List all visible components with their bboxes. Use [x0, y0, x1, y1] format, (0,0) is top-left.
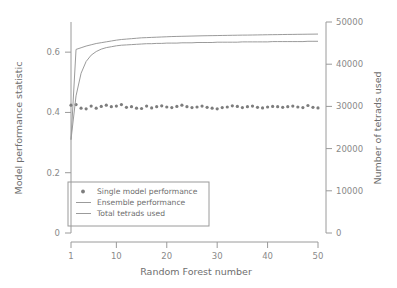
x-tick-label: 30: [212, 251, 223, 261]
y2-axis-title: Number of tetrads used: [372, 71, 383, 184]
data-point: [291, 105, 294, 108]
x-tick-label: 40: [262, 251, 273, 261]
data-point: [130, 105, 133, 108]
x-tick-label: 1: [68, 251, 73, 261]
y2-tick-label: 50000: [336, 17, 363, 27]
series-line-ensemble-performance: [71, 41, 318, 139]
data-point: [165, 105, 168, 108]
data-point: [311, 106, 314, 109]
data-point: [115, 105, 118, 108]
data-point: [281, 106, 284, 109]
data-point: [90, 105, 93, 108]
figure: 00.20.40.6 01000020000300004000050000 11…: [0, 0, 397, 288]
data-point: [105, 104, 108, 107]
data-point: [241, 106, 244, 109]
data-point: [206, 106, 209, 109]
series-line-total-tetrads-used: [71, 34, 318, 140]
legend-dot-marker: [81, 190, 85, 194]
data-point: [200, 105, 203, 108]
data-point: [190, 106, 193, 109]
legend-label: Total tetrads used: [96, 209, 165, 218]
data-point: [135, 107, 138, 110]
data-series-layer: [69, 34, 319, 140]
data-point: [271, 105, 274, 108]
data-point: [110, 105, 113, 108]
data-point: [306, 104, 309, 107]
y2-tick-label: 40000: [336, 59, 363, 69]
x-tick-label: 50: [313, 251, 324, 261]
series-markers-single-model-performance: [69, 103, 319, 110]
left-axis: 00.20.40.6: [46, 22, 71, 238]
data-point: [170, 106, 173, 109]
right-axis-ticks: 01000020000300004000050000: [326, 17, 363, 238]
data-point: [216, 107, 219, 110]
data-point: [195, 105, 198, 108]
data-point: [286, 105, 289, 108]
data-point: [140, 107, 143, 110]
y2-tick-label: 0: [336, 228, 341, 238]
data-point: [95, 107, 98, 110]
data-point: [316, 106, 319, 109]
left-axis-ticks: 00.20.40.6: [46, 47, 71, 238]
data-point: [211, 107, 214, 110]
x-axis-ticks: 11020304050: [68, 242, 323, 261]
data-point: [79, 107, 82, 110]
legend-label: Single model performance: [97, 187, 198, 196]
x-tick-label: 10: [111, 251, 122, 261]
data-point: [266, 105, 269, 108]
data-point: [120, 103, 123, 106]
data-point: [185, 105, 188, 108]
right-axis: 01000020000300004000050000: [326, 17, 363, 238]
legend: Single model performanceEnsemble perform…: [68, 182, 209, 226]
data-point: [155, 105, 158, 108]
data-point: [236, 105, 239, 108]
y-tick-label: 0.2: [46, 168, 60, 178]
y-axis-title: Model performance statistic: [13, 62, 24, 195]
y-tick-label: 0: [55, 228, 60, 238]
data-point: [276, 105, 279, 108]
data-point: [246, 105, 249, 108]
data-point: [301, 106, 304, 109]
data-point: [145, 105, 148, 108]
y2-tick-label: 20000: [336, 144, 363, 154]
data-point: [226, 105, 229, 108]
data-point: [256, 106, 259, 109]
data-point: [125, 106, 128, 109]
data-point: [160, 104, 163, 107]
x-tick-label: 20: [161, 251, 172, 261]
y-tick-label: 0.4: [46, 107, 60, 117]
data-point: [296, 105, 299, 108]
chart-svg: 00.20.40.6 01000020000300004000050000 11…: [0, 0, 397, 288]
data-point: [231, 104, 234, 107]
y2-tick-label: 30000: [336, 101, 363, 111]
data-point: [251, 105, 254, 108]
y-tick-label: 0.6: [46, 47, 60, 57]
data-point: [85, 107, 88, 110]
data-point: [221, 106, 224, 109]
y2-tick-label: 10000: [336, 186, 363, 196]
data-point: [175, 105, 178, 108]
x-axis: 11020304050: [68, 242, 323, 261]
legend-label: Ensemble performance: [97, 198, 186, 207]
legend-items: Single model performanceEnsemble perform…: [76, 187, 198, 218]
x-axis-title: Random Forest number: [140, 266, 252, 277]
data-point: [180, 104, 183, 107]
data-point: [150, 106, 153, 109]
data-point: [261, 106, 264, 109]
data-point: [69, 104, 72, 107]
data-point: [100, 105, 103, 108]
